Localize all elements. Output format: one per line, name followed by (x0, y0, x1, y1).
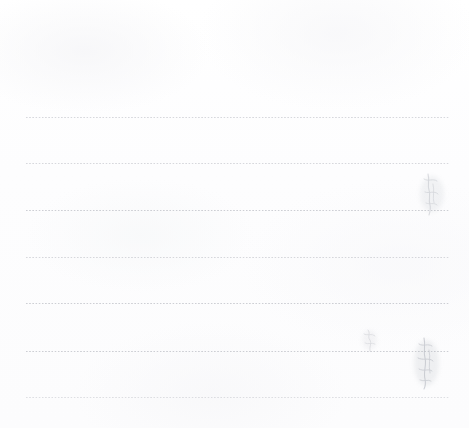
rule-line-3 (26, 210, 450, 211)
rule-line-2 (26, 163, 450, 164)
ruled-lines-group (0, 0, 469, 428)
rule-line-1 (26, 117, 450, 118)
rule-line-7 (26, 397, 450, 398)
rule-line-5 (26, 303, 450, 304)
rule-line-4 (26, 257, 450, 258)
rule-line-6 (26, 351, 450, 352)
scanned-page (0, 0, 469, 428)
